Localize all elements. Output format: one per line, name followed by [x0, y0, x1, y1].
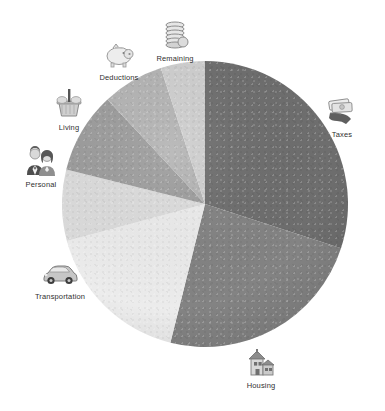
- grocery-basket-icon: [49, 87, 89, 121]
- piggy-bank-icon: [99, 37, 139, 71]
- callout-housing[interactable]: Housing: [218, 345, 304, 390]
- callout-label: Housing: [247, 381, 276, 390]
- callout-living[interactable]: Living: [26, 87, 112, 132]
- callout-label: Living: [59, 123, 80, 132]
- car-icon: [40, 256, 80, 290]
- callout-label: Deductions: [99, 73, 138, 82]
- house-icon: [241, 345, 281, 379]
- callout-label: Personal: [26, 180, 57, 189]
- money-in-hand-icon: [322, 94, 362, 128]
- pie-chart-canvas: Remaining Deductions: [0, 0, 385, 411]
- callout-label: Transportation: [35, 292, 85, 301]
- callout-personal[interactable]: Personal: [0, 144, 84, 189]
- callout-label: Taxes: [332, 130, 352, 139]
- callout-taxes[interactable]: Taxes: [299, 94, 385, 139]
- people-icon: [21, 144, 61, 178]
- callout-transportation[interactable]: Transportation: [17, 256, 103, 301]
- callout-deductions[interactable]: Deductions: [76, 37, 162, 82]
